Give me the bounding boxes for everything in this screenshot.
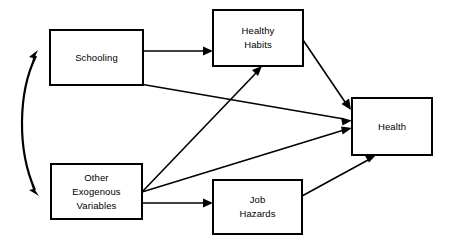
node-schooling[interactable]: Schooling (50, 30, 143, 85)
edge-other-exogenous-to-job-hazards (142, 199, 213, 208)
node-schooling-label: Schooling (75, 52, 118, 63)
node-other-exogenous-variables[interactable]: Other Exogenous Variables (51, 164, 142, 219)
edge-healthy-habits-to-health (303, 40, 351, 110)
node-job-hazards[interactable]: Job Hazards (213, 180, 302, 234)
edge-path (140, 84, 344, 119)
edge-schooling-to-health (140, 84, 352, 126)
diagram-svg: Schooling Healthy Habits Other Exogenous… (0, 0, 454, 246)
arrowhead-icon (341, 118, 352, 126)
edge-schooling-to-healthy-habits (143, 47, 213, 56)
arrowhead-icon (341, 127, 352, 135)
node-job-hazards-label-line-2: Hazards (239, 208, 275, 219)
edge-job-hazards-to-health (302, 155, 376, 196)
edge-path (302, 160, 368, 196)
node-job-hazards-label-line-1: Job (250, 194, 266, 205)
node-healthy-habits[interactable]: Healthy Habits (213, 10, 303, 66)
arrowhead-icon (203, 199, 213, 208)
diagram-canvas: Schooling Healthy Habits Other Exogenous… (0, 0, 454, 246)
node-other-exogenous-variables-label-line-1: Other (84, 172, 108, 183)
edge-schooling-other-exogenous-correlation (22, 50, 39, 196)
node-health-label: Health (378, 121, 406, 132)
node-healthy-habits-label-line-2: Habits (244, 39, 272, 50)
node-other-exogenous-variables-label-line-3: Variables (77, 200, 117, 211)
node-other-exogenous-variables-label-line-2: Exogenous (72, 186, 121, 197)
node-healthy-habits-label-line-1: Healthy (242, 25, 275, 36)
correlation-curve-path (22, 56, 36, 190)
arrowhead-icon (203, 47, 213, 56)
edge-path (303, 40, 345, 102)
node-health[interactable]: Health (352, 98, 432, 155)
